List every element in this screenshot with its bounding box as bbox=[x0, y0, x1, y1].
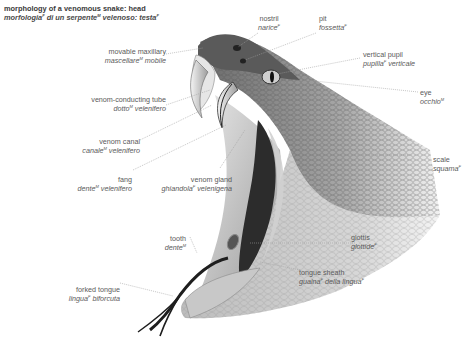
leader-fang bbox=[133, 125, 226, 170]
label-tooth: tooth denteM bbox=[150, 234, 186, 252]
pupil-shape bbox=[270, 72, 274, 83]
leader-movable-maxillary bbox=[166, 48, 203, 54]
leader-forked-tongue bbox=[120, 283, 173, 296]
leader-tooth bbox=[190, 237, 197, 253]
pit-shape bbox=[240, 59, 246, 64]
label-pit: pit fossettaF bbox=[319, 14, 347, 32]
label-movable-maxillary: movable maxillary mascellareM mobile bbox=[80, 47, 166, 65]
label-vertical-pupil: vertical pupil pupillaF verticale bbox=[363, 50, 415, 68]
label-nostril: nostril nariceF bbox=[258, 14, 280, 32]
label-venom-canal: venom canal canaleM velenifero bbox=[40, 137, 140, 155]
label-venom-gland: venom gland ghiandolaF velenigena bbox=[152, 175, 232, 193]
label-scale: scale squamaF bbox=[433, 155, 461, 173]
label-forked-tongue: forked tongue linguaF biforcuta bbox=[40, 285, 120, 303]
label-eye: eye occhioM bbox=[420, 88, 444, 106]
label-venom-conducting-tube: venom-conducting tube dottoM velenifero bbox=[60, 95, 166, 113]
label-tongue-sheath: tongue sheath guainaF della linguaF bbox=[299, 268, 364, 286]
label-glottis: glottis glottideF bbox=[351, 233, 377, 251]
label-fang: fang denteM velenifero bbox=[40, 175, 132, 193]
